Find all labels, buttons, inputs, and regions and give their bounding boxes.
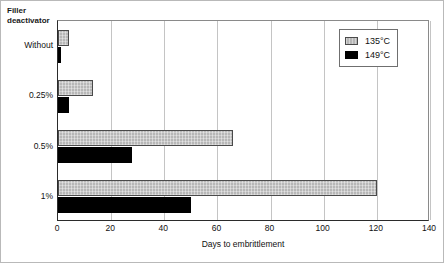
y-axis-tick-label: 1% [1,191,53,201]
gridline [430,21,431,220]
y-axis-tick-labels: Without0.25%0.5%1% [1,20,53,221]
x-axis-tick-labels: 020406080100120140 [57,223,429,235]
x-axis-tick-label: 0 [55,223,60,234]
chart-legend: 135°C 149°C [339,29,398,67]
x-axis-tick-label: 40 [159,223,168,234]
bar-group [58,172,428,222]
x-axis-tick-label: 80 [265,223,274,234]
chart-figure: Filler deactivator Without0.25%0.5%1% 13… [0,0,444,263]
x-axis-tick-label: 20 [105,223,114,234]
y-axis-title-line-1: Filler [7,6,67,16]
bar [58,47,61,63]
legend-item: 135°C [345,34,390,48]
legend-label-149c: 149°C [365,50,390,60]
legend-swatch-149c [345,51,358,59]
bar [58,130,233,146]
plot-area: 135°C 149°C [57,20,429,221]
bar [58,147,132,163]
y-axis-tick-label: Without [1,40,53,50]
bar [58,30,69,46]
legend-item: 149°C [345,48,390,62]
x-axis-tick-label: 60 [212,223,221,234]
x-axis-tick-label: 140 [422,223,436,234]
y-axis-tick-label: 0.25% [1,90,53,100]
x-axis-tick-label: 100 [316,223,330,234]
bar [58,197,191,213]
legend-swatch-135c [345,37,358,45]
legend-label-135c: 135°C [365,36,390,46]
x-axis-tick-label: 120 [369,223,383,234]
y-axis-tick-label: 0.5% [1,141,53,151]
bar [58,80,93,96]
bar [58,97,69,113]
x-axis-title: Days to embrittlement [57,239,429,249]
bar [58,180,377,196]
bar-group [58,122,428,172]
bar-group [58,71,428,121]
